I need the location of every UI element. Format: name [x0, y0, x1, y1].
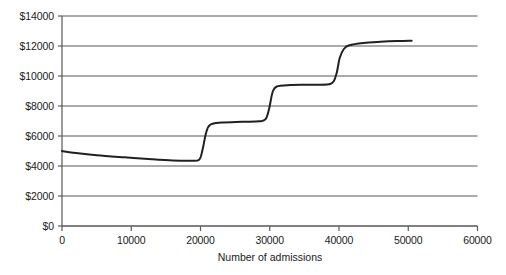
y-tick-label: $12000: [4, 41, 54, 52]
x-tick-label: 10000: [101, 235, 161, 246]
y-tick-label: $14000: [4, 11, 54, 22]
gridlines-group: [62, 16, 478, 226]
y-tick-label: $0: [4, 221, 54, 232]
y-tick-label: $4000: [4, 161, 54, 172]
chart-container: $0$2000$4000$6000$8000$10000$12000$14000…: [0, 0, 506, 275]
y-tick-label: $10000: [4, 71, 54, 82]
x-axis-title: Number of admissions: [170, 251, 370, 263]
x-tick-label: 20000: [171, 235, 231, 246]
line-chart-plot: [0, 0, 506, 275]
y-tick-label: $6000: [4, 131, 54, 142]
series-line-0: [62, 41, 412, 161]
x-tick-label: 60000: [448, 235, 506, 246]
x-tick-label: 30000: [240, 235, 300, 246]
y-tick-label: $8000: [4, 101, 54, 112]
x-tick-label: 0: [32, 235, 92, 246]
y-tick-label: $2000: [4, 191, 54, 202]
x-tick-label: 50000: [378, 235, 438, 246]
data-series-group: [62, 41, 412, 161]
x-axis-ticks: [62, 226, 478, 231]
x-tick-label: 40000: [309, 235, 369, 246]
